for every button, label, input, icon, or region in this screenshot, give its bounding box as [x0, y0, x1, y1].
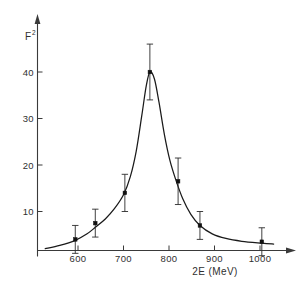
x-tick-label-600: 600 — [69, 253, 86, 264]
y-tick-label-30: 30 — [23, 113, 34, 124]
y-tick-marks — [38, 72, 43, 212]
data-point-group — [72, 44, 265, 256]
y-axis-title-text: F — [25, 31, 32, 42]
y-tick-labels: 40 30 20 10 — [23, 67, 34, 218]
y-axis — [35, 14, 41, 257]
x-axis-arrowhead-icon — [286, 248, 296, 254]
y-axis-title-superscript: 2 — [32, 29, 36, 36]
y-tick-label-10: 10 — [23, 206, 34, 217]
x-tick-label-1000: 1000 — [249, 253, 272, 264]
data-point — [92, 209, 98, 237]
y-tick-label-40: 40 — [23, 67, 34, 78]
data-point — [147, 44, 153, 100]
data-marker-square — [148, 70, 152, 74]
data-point — [259, 228, 265, 256]
x-axis-title: 2E (MeV) — [192, 266, 237, 277]
data-point — [122, 174, 128, 211]
y-tick-label-20: 20 — [23, 160, 34, 171]
y-axis-title: F 2 — [25, 29, 36, 42]
x-tick-label-900: 900 — [206, 253, 223, 264]
x-tick-labels: 600 700 800 900 1000 — [69, 253, 271, 264]
data-marker-square — [73, 238, 77, 242]
data-marker-square — [93, 221, 97, 225]
y-axis-arrowhead-icon — [35, 14, 41, 24]
x-tick-label-800: 800 — [160, 253, 177, 264]
data-marker-square — [198, 224, 202, 228]
data-marker-square — [260, 240, 264, 244]
x-tick-label-700: 700 — [115, 253, 132, 264]
data-point — [197, 212, 203, 240]
data-marker-square — [176, 179, 180, 183]
data-marker-square — [123, 191, 127, 195]
chart-figure: 40 30 20 10 600 700 800 900 1000 F 2 2E … — [0, 0, 308, 284]
x-tick-marks — [78, 246, 260, 251]
resonance-curve — [45, 72, 273, 249]
plot-canvas: 40 30 20 10 600 700 800 900 1000 F 2 2E … — [0, 0, 308, 284]
